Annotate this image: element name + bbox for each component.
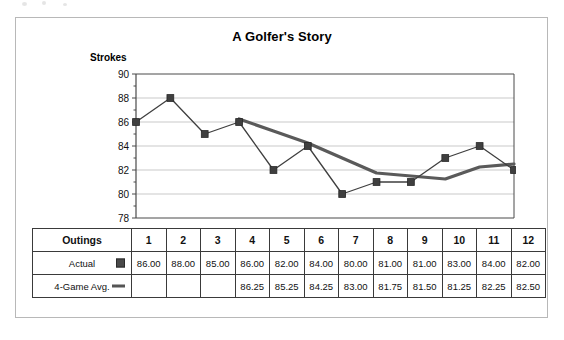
table-cell — [201, 275, 236, 298]
table-cell: 83.00 — [339, 275, 374, 298]
svg-text:82: 82 — [118, 165, 130, 176]
table-header-outing-8: 8 — [373, 229, 408, 252]
table-cell: 83.00 — [442, 252, 477, 275]
table-header-outing-7: 7 — [339, 229, 374, 252]
table-cell: 86.00 — [235, 252, 270, 275]
square-marker-icon — [116, 259, 125, 268]
y-axis-tick-labels: 78808284868890 — [118, 70, 130, 222]
y-axis-caption: Strokes — [90, 52, 127, 63]
chart-title: A Golfer's Story — [0, 29, 564, 44]
series-label-text: Actual — [69, 258, 95, 269]
table-cell: 84.25 — [304, 275, 339, 298]
gridlines — [136, 74, 514, 218]
chart-svg: 78808284868890 — [96, 70, 516, 222]
scan-artifact — [22, 2, 27, 6]
table-cell — [132, 275, 167, 298]
table-header-outings: Outings — [33, 229, 132, 252]
chart-plot-area: 78808284868890 — [96, 70, 516, 222]
svg-text:78: 78 — [118, 213, 130, 222]
table-header-outing-4: 4 — [235, 229, 270, 252]
scan-artifact — [63, 3, 67, 6]
table-cell: 82.50 — [511, 275, 546, 298]
table-row: 4-Game Avg.86.2585.2584.2583.0081.7581.5… — [33, 275, 546, 298]
table-header-outing-1: 1 — [132, 229, 167, 252]
series-label-four-game-avg: 4-Game Avg. — [33, 275, 132, 298]
series-label-text: 4-Game Avg. — [54, 281, 109, 292]
series-label-actual: Actual — [33, 252, 132, 275]
table-cell: 88.00 — [166, 252, 201, 275]
table-header-outing-10: 10 — [442, 229, 477, 252]
table-cell: 80.00 — [339, 252, 374, 275]
table-cell: 82.00 — [270, 252, 305, 275]
table-cell: 81.00 — [373, 252, 408, 275]
table-cell: 86.00 — [132, 252, 167, 275]
table-cell: 81.50 — [408, 275, 443, 298]
table-cell: 81.75 — [373, 275, 408, 298]
table-cell: 85.00 — [201, 252, 236, 275]
line-marker-icon — [112, 285, 125, 288]
table-header-outing-5: 5 — [270, 229, 305, 252]
svg-text:86: 86 — [118, 117, 130, 128]
table-cell: 84.00 — [304, 252, 339, 275]
table-header-outing-6: 6 — [304, 229, 339, 252]
table-cell: 84.00 — [477, 252, 512, 275]
table-header-outing-2: 2 — [166, 229, 201, 252]
table-header-outing-3: 3 — [201, 229, 236, 252]
svg-text:80: 80 — [118, 189, 130, 200]
svg-text:84: 84 — [118, 141, 130, 152]
table-cell: 82.00 — [511, 252, 546, 275]
svg-text:88: 88 — [118, 93, 130, 104]
table-cell: 82.25 — [477, 275, 512, 298]
table-header-outing-12: 12 — [511, 229, 546, 252]
table-cell — [166, 275, 201, 298]
table-header-outing-9: 9 — [408, 229, 443, 252]
table-row: Actual86.0088.0085.0086.0082.0084.0080.0… — [33, 252, 546, 275]
table-cell: 81.25 — [442, 275, 477, 298]
table-cell: 81.00 — [408, 252, 443, 275]
table-header-outing-11: 11 — [477, 229, 512, 252]
data-table: Outings123456789101112Actual86.0088.0085… — [32, 228, 546, 298]
table-header-row: Outings123456789101112 — [33, 229, 546, 252]
table-cell: 85.25 — [270, 275, 305, 298]
table-cell: 86.25 — [235, 275, 270, 298]
svg-text:90: 90 — [118, 70, 130, 80]
y-axis-ticks — [132, 74, 136, 218]
scan-artifact — [42, 1, 46, 5]
